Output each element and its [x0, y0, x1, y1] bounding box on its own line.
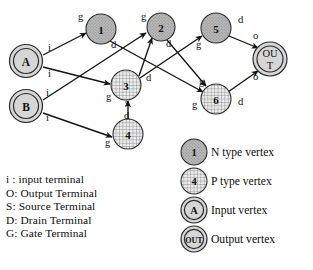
vertex-label: 2 [158, 22, 164, 34]
edge-A-3 [43, 67, 110, 84]
vertex-label-line2: T [267, 60, 274, 71]
legend-term-output: O: Output Terminal [6, 187, 156, 201]
legend-sample-label: OUT [185, 236, 203, 245]
edge-3-2 [139, 38, 152, 76]
vertex-label: A [22, 56, 31, 68]
edge-label: d [124, 110, 130, 121]
n-type-vertex-icon: 1 [180, 138, 210, 166]
vertex-A[interactable]: A [10, 45, 43, 78]
vertex-label: B [22, 101, 30, 113]
vertex-5[interactable]: 5 [201, 13, 231, 43]
vertex-label: 6 [213, 94, 219, 106]
edge-label: d [238, 96, 244, 107]
vertex-6[interactable]: 6 [201, 84, 231, 114]
legend-key-label: N type vertex [210, 146, 274, 159]
edge-label: d [111, 39, 117, 50]
legend-key-input: A Input vertex [180, 196, 313, 224]
legend-sample-label: 4 [191, 176, 197, 187]
vertex-label: 1 [98, 24, 104, 36]
vertex-3[interactable]: 3 [111, 70, 141, 100]
output-vertex-icon: OUT [180, 225, 210, 253]
legend-term-input: i : input terminal [6, 173, 156, 187]
vertex-label-line1: OU [262, 48, 278, 59]
diagram-root: 1 2 5 3 6 4 [0, 0, 313, 270]
vertex-4[interactable]: 4 [113, 119, 143, 149]
edge-label: g [192, 99, 198, 110]
terminal-legend: i : input terminal O: Output Terminal S:… [6, 173, 156, 241]
edges-layer [43, 33, 258, 137]
legend-key-n-type: 1 N type vertex [180, 138, 313, 166]
vertex-2[interactable]: 2 [147, 13, 175, 41]
edge-label: i [46, 87, 49, 98]
legend-key-label: Input vertex [210, 204, 267, 217]
vertex-label: 5 [213, 23, 219, 35]
edge-label: g [105, 137, 111, 148]
edge-label: d [238, 14, 244, 25]
vertex-label: 4 [125, 129, 131, 141]
legend-term-drain: D: Drain Terminal [6, 214, 156, 228]
vertex-type-legend: 1 N type vertex 4 P type vertex A [180, 138, 313, 254]
legend-key-label: Output vertex [210, 233, 275, 246]
legend-key-output: OUT Output vertex [180, 225, 313, 253]
edge-label: i [46, 112, 49, 123]
legend-sample-label: A [190, 205, 198, 216]
vertex-label: 3 [123, 80, 129, 92]
legend-key-p-type: 4 P type vertex [180, 167, 313, 195]
edge-label: s [125, 97, 129, 108]
edge-label: o [253, 30, 258, 41]
edge-label: d [166, 38, 172, 49]
edge-label: g [106, 91, 112, 102]
edge-label: i [48, 42, 51, 53]
legend-term-source: S: Source Terminal [6, 200, 156, 214]
legend-term-gate: G: Gate Terminal [6, 227, 156, 241]
edge-label: g [141, 11, 147, 22]
edge-B-4 [43, 113, 112, 137]
legend-key-label: P type vertex [210, 175, 272, 188]
input-vertex-icon: A [180, 196, 210, 224]
p-type-vertex-icon: 4 [180, 167, 210, 195]
edge-label: g [78, 11, 84, 22]
edge-label: g [196, 39, 202, 50]
edge-label: d [146, 72, 152, 83]
legend-sample-label: 1 [191, 147, 196, 158]
edge-label: g [199, 76, 205, 87]
edge-label: i [48, 68, 51, 79]
edge-label: o [253, 71, 258, 82]
vertex-B[interactable]: B [10, 90, 43, 123]
